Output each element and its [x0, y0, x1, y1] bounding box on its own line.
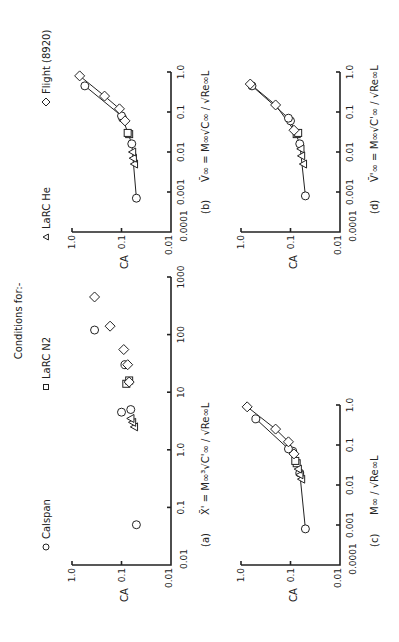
diamond-marker-icon: [75, 71, 85, 81]
legend-item: LaRC N2: [41, 337, 52, 390]
square-marker-icon: [124, 129, 131, 136]
figure-canvas: Conditions for:- CalspanLaRC N2LaRC HeFl…: [0, 0, 399, 642]
x-tick-label: 0.0001: [179, 210, 189, 242]
figure-svg: Conditions for:- CalspanLaRC N2LaRC HeFl…: [0, 0, 399, 642]
x-tick-label: 10: [176, 386, 186, 398]
panel-tag: (c): [369, 534, 380, 547]
y-tick-label: 0.01: [164, 568, 174, 588]
y-tick-label: 1.0: [236, 568, 246, 583]
panel-tag: (a): [200, 533, 211, 547]
conditions-title: Conditions for:-: [13, 282, 24, 359]
x-tick-label: 0.01: [345, 142, 355, 162]
x-tick-label: 0.1: [345, 105, 355, 119]
x-tick-label: 0.0001: [348, 543, 358, 575]
x-tick-label: 1.0: [176, 442, 186, 457]
panel-b: 0.00010.0010.010.11.00.010.11.0CA(b)V̄∞ …: [67, 65, 211, 269]
x-tick-label: 0.001: [345, 512, 355, 538]
y-tick-label: 0.01: [164, 235, 174, 255]
y-axis-label: CA: [288, 588, 299, 602]
y-tick-label: 0.01: [333, 568, 343, 588]
axis-lines: [241, 72, 340, 232]
legend-item: LaRC He: [41, 187, 52, 240]
x-axis-label: V̄∞ = M∞√C∞ / √Re∞L: [199, 70, 211, 182]
legend: CalspanLaRC N2LaRC HeFlight (8920): [41, 30, 52, 550]
x-tick-label: 0.1: [345, 438, 355, 452]
x-tick-label: 0.001: [345, 179, 355, 205]
x-tick-label: 0.01: [176, 142, 186, 162]
panels: 0.010.11.01010010000.010.11.0CA(a)X̄' = …: [67, 65, 380, 602]
x-axis-label: V̄'∞ = M∞√C'∞ / √Re∞L: [368, 65, 380, 182]
x-axis-label: X̄' = M∞³√C'∞ / √Re∞L: [199, 402, 211, 515]
diamond-marker-icon: [42, 98, 50, 106]
y-tick-label: 1.0: [67, 568, 77, 583]
panel-a: 0.010.11.01010010000.010.11.0CA(a)X̄' = …: [67, 265, 211, 602]
legend-item: Calspan: [41, 499, 52, 550]
x-tick-label: 0.1: [176, 500, 186, 514]
x-axis-label: M∞ / √Re∞L: [369, 455, 380, 515]
legend-label: Calspan: [41, 499, 52, 539]
diamond-marker-icon: [90, 292, 100, 302]
axis-lines: [72, 72, 171, 232]
diamond-marker-icon: [242, 402, 252, 412]
axis-lines: [72, 277, 171, 565]
panel-tag: (d): [369, 200, 380, 214]
circle-marker-icon: [81, 82, 89, 90]
axis-lines: [241, 405, 340, 565]
y-tick-label: 0.1: [117, 568, 127, 582]
square-marker-icon: [292, 457, 299, 464]
x-tick-label: 100: [176, 326, 186, 343]
circle-marker-icon: [252, 415, 260, 423]
y-tick-label: 0.1: [286, 235, 296, 249]
x-tick-label: 0.01: [345, 475, 355, 495]
circle-marker-icon: [91, 326, 99, 334]
panel-d: 0.00010.0010.010.11.00.010.11.0CA(d)V̄'∞…: [236, 65, 380, 269]
diamond-marker-icon: [105, 321, 115, 331]
circle-marker-icon: [127, 406, 135, 414]
x-tick-label: 0.1: [176, 105, 186, 119]
y-axis-label: CA: [119, 588, 130, 602]
legend-item: Flight (8920): [41, 30, 52, 106]
x-tick-label: 1.0: [176, 65, 186, 80]
circle-marker-icon: [132, 521, 140, 529]
y-axis-label: CA: [119, 255, 130, 269]
x-tick-label: 1.0: [345, 65, 355, 80]
circle-marker-icon: [284, 114, 292, 122]
x-tick-label: 0.01: [179, 549, 189, 569]
circle-marker-icon: [118, 408, 126, 416]
x-tick-label: 0.001: [176, 179, 186, 205]
y-axis-label: CA: [288, 255, 299, 269]
legend-label: Flight (8920): [41, 30, 52, 94]
triangle-marker-icon: [299, 160, 306, 168]
x-tick-label: 0.0001: [348, 210, 358, 242]
circle-marker-icon: [301, 525, 309, 533]
panel-tag: (b): [200, 200, 211, 214]
circle-marker-icon: [43, 544, 49, 550]
y-tick-label: 1.0: [67, 235, 77, 250]
y-tick-label: 0.1: [286, 568, 296, 582]
legend-label: LaRC He: [41, 187, 52, 229]
y-tick-label: 0.01: [333, 235, 343, 255]
panel-c: 0.00010.0010.010.11.00.010.11.0CA(c)M∞ /…: [236, 398, 380, 602]
circle-marker-icon: [128, 140, 136, 148]
y-tick-label: 0.1: [117, 235, 127, 249]
triangle-marker-icon: [43, 234, 48, 240]
y-tick-label: 1.0: [236, 235, 246, 250]
square-marker-icon: [44, 385, 49, 390]
legend-label: LaRC N2: [41, 337, 52, 379]
circle-marker-icon: [301, 192, 309, 200]
x-tick-label: 1.0: [345, 398, 355, 413]
diamond-marker-icon: [119, 345, 129, 355]
circle-marker-icon: [132, 194, 140, 202]
x-tick-label: 1000: [176, 265, 186, 288]
